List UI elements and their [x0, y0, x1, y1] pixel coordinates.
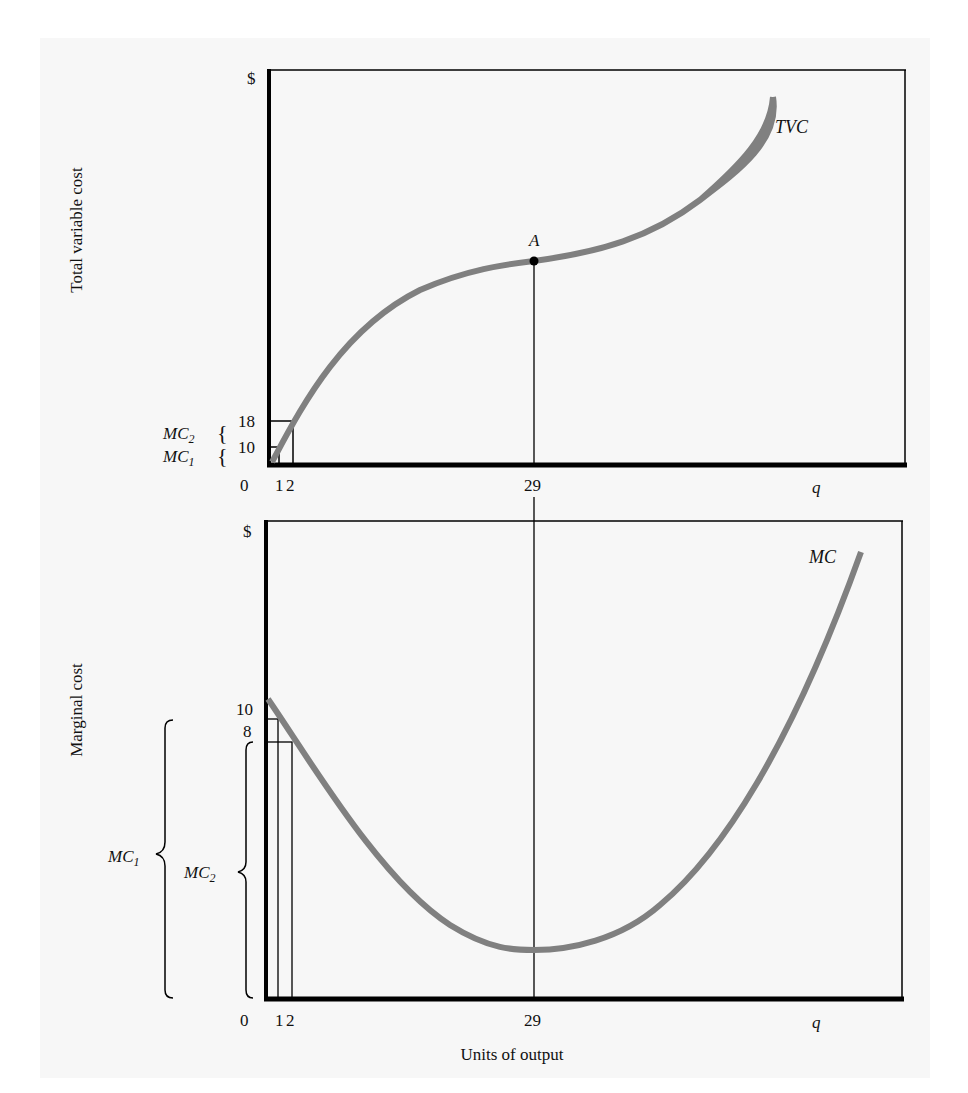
- mc-curve: [268, 552, 861, 950]
- mc1-brace-top: {: [217, 443, 228, 468]
- top-mc1-label: MC1: [162, 447, 195, 469]
- top-y-axis-title: Total variable cost: [67, 167, 86, 293]
- top-dollar-label: $: [247, 69, 256, 88]
- bottom-x-tick-2: 2: [286, 1011, 295, 1030]
- tvc-label: TVC: [775, 117, 809, 137]
- mc2-brace: [238, 742, 253, 998]
- mc2-brace-top: {: [217, 420, 228, 445]
- point-a-label: A: [528, 231, 540, 250]
- top-x-tick-29: 29: [524, 476, 541, 495]
- bottom-y-tick-10: 10: [236, 700, 253, 719]
- top-x-axis-q: q: [812, 478, 821, 497]
- top-x-tick-1: 1: [275, 476, 284, 495]
- bottom-x-tick-1: 1: [275, 1011, 284, 1030]
- top-y-tick-10: 10: [238, 438, 255, 457]
- top-mc2-label: MC2: [162, 424, 195, 446]
- mc-bar-q2: [266, 742, 292, 999]
- mc-chart: MC $ Marginal cost 10 8 MC1 MC2 0 1 2 29…: [67, 520, 904, 1064]
- top-x-tick-2: 2: [286, 476, 295, 495]
- tvc-chart: A TVC $ Total variable cost 18 10 { { MC…: [67, 69, 907, 497]
- top-x-tick-0: 0: [240, 476, 249, 495]
- bottom-x-tick-0: 0: [240, 1011, 249, 1030]
- mc-label: MC: [808, 547, 837, 567]
- tvc-curve: [272, 97, 774, 462]
- bottom-x-tick-29: 29: [524, 1011, 541, 1030]
- bottom-dollar-label: $: [243, 522, 252, 541]
- point-a-marker: [530, 257, 539, 266]
- bottom-x-axis-q: q: [812, 1013, 821, 1032]
- mc1-brace: [156, 720, 173, 998]
- cost-curves-figure: A TVC $ Total variable cost 18 10 { { MC…: [0, 0, 968, 1093]
- bottom-x-axis-title: Units of output: [461, 1045, 564, 1064]
- bottom-y-axis-title: Marginal cost: [67, 663, 86, 757]
- top-y-tick-18: 18: [238, 412, 255, 431]
- bottom-mc1-label: MC1: [107, 847, 140, 869]
- bottom-y-tick-8: 8: [243, 722, 252, 741]
- bottom-mc2-label: MC2: [183, 863, 216, 885]
